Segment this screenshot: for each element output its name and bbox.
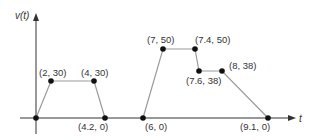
label-8-38: (8, 38) xyxy=(229,60,256,71)
label-7-50: (7, 50) xyxy=(147,34,174,45)
point-4-2-0 xyxy=(102,115,108,121)
label-7-6-38: (7.6, 38) xyxy=(186,75,221,86)
data-points xyxy=(33,46,271,121)
x-axis-arrow-icon xyxy=(288,115,296,121)
label-4-2-0: (4.2, 0) xyxy=(78,121,108,132)
point-labels: v(t) t (2, 30) (4, 30) (4.2, 0) (6, 0) (… xyxy=(15,10,303,132)
velocity-time-chart: v(t) t (2, 30) (4, 30) (4.2, 0) (6, 0) (… xyxy=(0,0,315,140)
segment-1 xyxy=(36,81,105,118)
point-7-4-50 xyxy=(192,46,198,52)
point-8-38 xyxy=(219,68,225,74)
label-6-0: (6, 0) xyxy=(145,121,167,132)
y-axis-arrow-icon xyxy=(33,13,39,21)
point-9-1-0 xyxy=(265,115,271,121)
label-9-1-0: (9.1, 0) xyxy=(240,121,270,132)
point-7-6-38 xyxy=(196,68,202,74)
point-0-0 xyxy=(33,115,39,121)
label-7-4-50: (7.4, 50) xyxy=(195,34,230,45)
label-4-30: (4, 30) xyxy=(81,67,108,78)
point-6-0 xyxy=(140,115,146,121)
point-2-30 xyxy=(48,78,54,84)
x-axis-label: t xyxy=(299,113,303,124)
point-7-50 xyxy=(160,46,166,52)
label-2-30: (2, 30) xyxy=(39,67,66,78)
point-4-30 xyxy=(91,78,97,84)
y-axis-label: v(t) xyxy=(15,10,29,21)
